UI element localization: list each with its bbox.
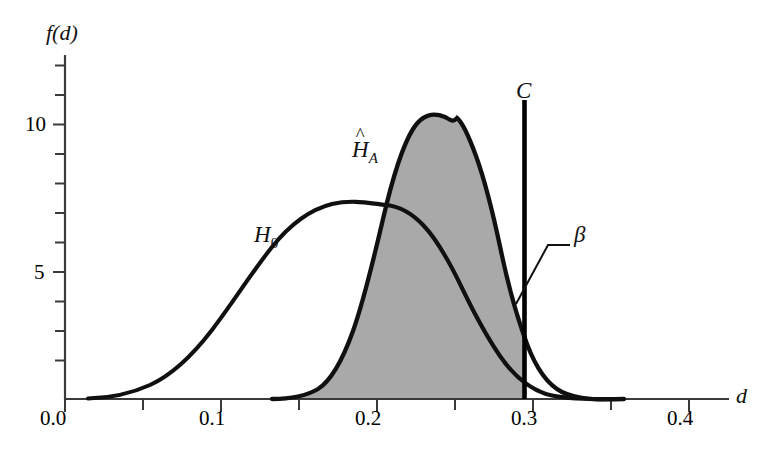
label-beta: β — [574, 222, 585, 248]
label-ha-subscript: A — [369, 150, 378, 166]
y-axis-ticks — [53, 66, 65, 361]
y-axis-title: f(d) — [46, 20, 78, 46]
label-h0-letter: H — [254, 222, 271, 247]
density-plot — [0, 0, 781, 456]
x-tick-label-1: 0.1 — [199, 406, 225, 431]
x-tick-label-2: 0.2 — [355, 406, 381, 431]
label-critical-value: C — [516, 78, 531, 104]
x-axis-title: d — [736, 383, 747, 409]
label-ha-hat-wrap: ^H — [352, 137, 369, 163]
figure-container: f(d) d 10 5 0.0 0.1 0.2 0.3 0.4 H0 ^HA C… — [0, 0, 781, 456]
label-null-hypothesis: H0 — [254, 222, 278, 252]
hat-accent-icon: ^ — [356, 124, 365, 146]
y-tick-label-10: 10 — [25, 112, 46, 137]
x-tick-label-0: 0.0 — [40, 406, 66, 431]
y-tick-label-5: 5 — [34, 260, 45, 285]
x-tick-label-3: 0.3 — [511, 406, 537, 431]
x-tick-label-4: 0.4 — [667, 406, 693, 431]
label-alt-hypothesis: ^HA — [352, 137, 378, 167]
label-h0-subscript: 0 — [271, 235, 279, 251]
